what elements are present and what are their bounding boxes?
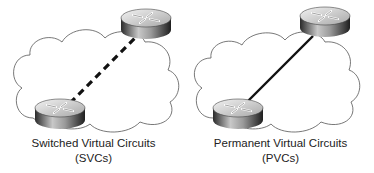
pvc-caption-line2: (PVCs) xyxy=(187,151,374,166)
pvc-caption: Permanent Virtual Circuits (PVCs) xyxy=(187,136,374,166)
pvc-caption-line1: Permanent Virtual Circuits xyxy=(187,136,374,151)
svc-caption-line2: (SVCs) xyxy=(0,151,187,166)
router-icon-bottom xyxy=(35,99,85,129)
pvc-panel: Permanent Virtual Circuits (PVCs) xyxy=(187,0,374,173)
router-icon-top xyxy=(121,9,171,39)
svc-diagram xyxy=(0,0,187,140)
svc-caption: Switched Virtual Circuits (SVCs) xyxy=(0,136,187,166)
router-icon-top xyxy=(300,7,350,37)
svc-caption-line1: Switched Virtual Circuits xyxy=(0,136,187,151)
pvc-diagram xyxy=(187,0,374,140)
svc-panel: Switched Virtual Circuits (SVCs) xyxy=(0,0,187,173)
router-icon-bottom xyxy=(213,99,263,129)
